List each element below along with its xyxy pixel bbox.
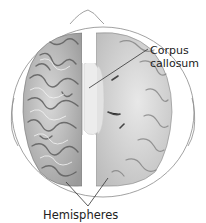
corpus-callosum-label: Corpus callosum bbox=[150, 44, 199, 70]
hemispheres-label: Hemispheres bbox=[43, 209, 118, 222]
corpus-callosum-label-line1: Corpus bbox=[150, 44, 199, 57]
left-hemisphere bbox=[23, 33, 82, 186]
brain-diagram: Corpus callosum Hemispheres bbox=[0, 0, 206, 223]
brain-illustration bbox=[0, 0, 206, 223]
corpus-callosum-label-line2: callosum bbox=[150, 57, 199, 70]
corpus-callosum bbox=[84, 61, 104, 134]
